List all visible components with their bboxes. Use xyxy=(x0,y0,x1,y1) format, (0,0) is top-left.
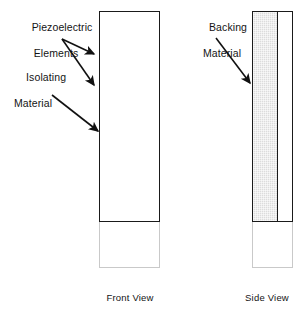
label-isolating-material-line2: Material xyxy=(14,97,94,110)
side-view-piezoelectric-band xyxy=(278,12,292,22)
side-view-isolating-band xyxy=(278,42,292,52)
front-view-isolating-band xyxy=(100,82,159,92)
front-view-isolating-band xyxy=(100,62,159,72)
front-view-piezoelectric-band xyxy=(100,112,159,122)
side-view-piezoelectric-band xyxy=(278,151,292,161)
front-view-isolating-band xyxy=(100,22,159,32)
side-view-isolating-band xyxy=(278,141,292,151)
side-view-isolating-band xyxy=(278,121,292,131)
side-view-backing-material xyxy=(252,11,277,222)
front-view-piezoelectric-band xyxy=(100,191,159,201)
side-view-piezoelectric-band xyxy=(278,171,292,181)
front-view-piezoelectric-band xyxy=(100,32,159,42)
side-view-piezoelectric-band xyxy=(278,92,292,102)
front-view-housing xyxy=(99,222,160,268)
front-view-piezoelectric-band xyxy=(100,211,159,221)
front-view-piezoelectric-band xyxy=(100,72,159,82)
front-view-isolating-band xyxy=(100,161,159,171)
side-view-isolating-band xyxy=(278,201,292,211)
front-view-piezoelectric-band xyxy=(100,52,159,62)
front-view-isolating-band xyxy=(100,141,159,151)
front-view-isolating-band xyxy=(100,181,159,191)
front-view-piezoelectric-band xyxy=(100,131,159,141)
caption-side-view: Side View xyxy=(237,292,297,304)
side-view-piezoelectric-band xyxy=(278,191,292,201)
label-isolating-material: Isolating Material xyxy=(14,58,94,136)
label-backing-material-line2: Material xyxy=(186,47,258,60)
front-view-element-stack xyxy=(99,11,160,222)
side-view-body xyxy=(252,11,293,222)
side-view-piezoelectric-band xyxy=(278,112,292,122)
side-view-isolating-band xyxy=(278,102,292,112)
front-view-piezoelectric-band xyxy=(100,151,159,161)
side-view-piezoelectric-band xyxy=(278,131,292,141)
side-view-isolating-band xyxy=(278,22,292,32)
ultrasound-transducer-diagram: Piezoelectric Elements Isolating Materia… xyxy=(0,0,305,319)
side-view-piezoelectric-band xyxy=(278,32,292,42)
side-view-isolating-band xyxy=(278,161,292,171)
front-view-piezoelectric-band xyxy=(100,171,159,181)
label-isolating-material-line1: Isolating xyxy=(26,71,66,83)
side-view-piezoelectric-band xyxy=(278,72,292,82)
label-piezoelectric-elements-line1: Piezoelectric xyxy=(32,21,93,33)
front-view-piezoelectric-band xyxy=(100,12,159,22)
front-view-isolating-band xyxy=(100,121,159,131)
side-view-piezoelectric-band xyxy=(278,211,292,221)
label-backing-material: Backing Material xyxy=(186,8,258,86)
front-view-piezoelectric-band xyxy=(100,92,159,102)
front-view-figure xyxy=(99,11,160,268)
side-view-piezoelectric-band xyxy=(278,52,292,62)
side-view-isolating-band xyxy=(278,82,292,92)
side-view-isolating-band xyxy=(278,62,292,72)
label-backing-material-line1: Backing xyxy=(209,21,247,33)
front-view-isolating-band xyxy=(100,102,159,112)
side-view-housing xyxy=(252,222,293,268)
side-view-figure xyxy=(252,11,293,268)
side-view-element-stack xyxy=(277,11,293,222)
front-view-isolating-band xyxy=(100,201,159,211)
front-view-isolating-band xyxy=(100,42,159,52)
side-view-isolating-band xyxy=(278,181,292,191)
caption-front-view: Front View xyxy=(95,292,165,304)
